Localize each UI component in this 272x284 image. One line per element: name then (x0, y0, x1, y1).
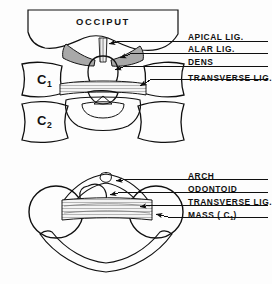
label-transverse-lig-coronal: TRANSVERSE LIG. (188, 73, 272, 83)
label-mass-c1: MASS ( C1) (188, 210, 237, 221)
label-transverse-lig-axial: TRANSVERSE LIG. (188, 197, 272, 207)
c2-label-main: C (37, 113, 47, 128)
transverse-ligament-axial (62, 198, 152, 220)
label-mass-suffix: ) (233, 210, 236, 220)
label-apical-lig: APICAL LIG. (188, 32, 244, 42)
label-mass-prefix: MASS ( C (188, 210, 230, 220)
label-alar-lig: ALAR LIG. (188, 44, 235, 54)
label-arch: ARCH (188, 171, 214, 181)
anatomy-illustration: OCCIPUT (0, 0, 272, 284)
c1-label-subscript: 1 (47, 79, 52, 89)
anatomy-figure: OCCIPUT (0, 0, 272, 284)
c2-label-subscript: 2 (47, 120, 52, 130)
c1-label-main: C (37, 72, 47, 87)
occiput-label: OCCIPUT (76, 16, 130, 27)
label-dens: DENS (188, 57, 213, 67)
label-odontoid: ODONTOID (188, 184, 237, 194)
apical-ligament (99, 38, 107, 62)
